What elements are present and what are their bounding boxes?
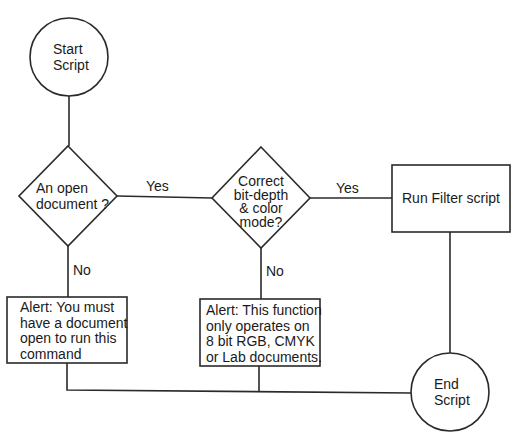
alert-bad-mode-line-3: 8 bit RGB, CMYK <box>206 334 322 350</box>
start-label-line-2: Script <box>53 58 89 74</box>
edge-label-no-bit-depth: No <box>266 264 284 279</box>
alert-bad-mode-line-4: or Lab documents. <box>206 350 322 366</box>
decision-open-doc-line-1: An open <box>36 181 109 197</box>
start-node-label: Start Script <box>53 42 89 73</box>
alert-no-doc-line-4: command <box>20 347 127 363</box>
decision-bit-depth-label: Correct bit-depth & color mode? <box>221 175 301 229</box>
end-label-line-2: Script <box>434 393 470 409</box>
alert-no-doc-line-3: open to run this <box>20 331 127 347</box>
alert-no-doc-label: Alert: You must have a document open to … <box>20 300 127 362</box>
alert-bad-mode-line-2: only operates on <box>206 319 322 335</box>
end-node-label: End Script <box>434 377 470 408</box>
start-label-line-1: Start <box>53 42 89 58</box>
alert-no-doc-line-2: have a document <box>20 316 127 332</box>
edge-label-yes-bit-depth: Yes <box>336 181 359 196</box>
decision-open-doc-label: An open document ? <box>36 181 109 212</box>
edge-alert-no-doc-to-end <box>67 363 411 393</box>
edge-yes-open-doc-to-bit-depth <box>117 196 212 198</box>
alert-bad-mode-line-1: Alert: This function <box>206 303 322 319</box>
decision-bit-depth-line-4: mode? <box>221 216 301 230</box>
run-filter-label: Run Filter script <box>392 191 510 207</box>
alert-bad-mode-label: Alert: This function only operates on 8 … <box>206 303 322 365</box>
edge-label-yes-open-doc: Yes <box>146 179 169 194</box>
end-label-line-1: End <box>434 377 470 393</box>
edge-label-no-open-doc: No <box>73 263 91 278</box>
alert-no-doc-line-1: Alert: You must <box>20 300 127 316</box>
decision-open-doc-line-2: document ? <box>36 197 109 213</box>
